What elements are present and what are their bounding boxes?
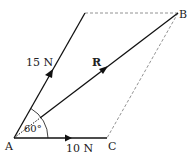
label-point-c: C	[108, 141, 116, 152]
parallelogram-diagram	[0, 0, 189, 159]
force-15n-arrowhead	[45, 69, 53, 78]
label-point-b: B	[179, 9, 187, 20]
label-r: R	[92, 57, 101, 68]
label-10n: 10 N	[66, 143, 93, 154]
label-point-a: A	[5, 141, 13, 152]
label-angle: 60°	[24, 124, 42, 134]
dashed-right-side	[107, 13, 178, 138]
resultant-line	[40, 13, 178, 118]
label-15n: 15 N	[26, 57, 53, 68]
force-10n-arrowhead	[65, 135, 72, 142]
